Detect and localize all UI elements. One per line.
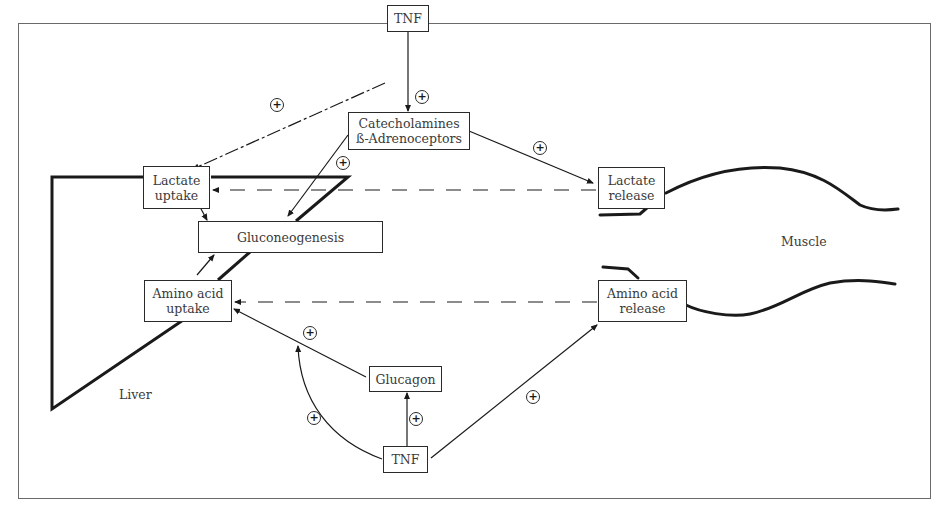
lactate-uptake-label-2: uptake — [155, 188, 199, 203]
catecholamines-node: Catecholamines ß-Adrenoceptors — [348, 112, 470, 150]
glucagon-label: Glucagon — [375, 372, 435, 387]
lactate-uptake-label-1: Lactate — [153, 173, 201, 188]
liver-label: Liver — [119, 387, 152, 402]
lactate-release-node: Lactate release — [598, 167, 665, 209]
gluconeogenesis-node: Gluconeogenesis — [198, 221, 383, 253]
amino-acid-release-label-2: release — [619, 301, 665, 316]
muscle-label: Muscle — [781, 234, 827, 249]
plus-icon: + — [409, 412, 423, 426]
gluconeogenesis-label: Gluconeogenesis — [237, 230, 344, 245]
plus-icon: + — [533, 141, 547, 155]
amino-acid-uptake-label-1: Amino acid — [153, 286, 224, 301]
lactate-release-label-2: release — [608, 188, 654, 203]
diagram-connectors — [0, 0, 949, 513]
plus-icon: + — [303, 326, 317, 340]
tnf-top-label: TNF — [394, 11, 422, 26]
tnf-top-node: TNF — [387, 5, 429, 32]
tnf-bottom-label: TNF — [392, 452, 420, 467]
amino-acid-uptake-node: Amino acid uptake — [144, 280, 232, 322]
catecholamines-label: Catecholamines — [358, 116, 459, 131]
plus-icon: + — [526, 390, 540, 404]
adrenoceptors-label: ß-Adrenoceptors — [356, 131, 462, 146]
glucagon-node: Glucagon — [369, 366, 442, 392]
amino-acid-uptake-label-2: uptake — [166, 301, 210, 316]
lactate-release-label-1: Lactate — [608, 173, 656, 188]
plus-icon: + — [307, 411, 321, 425]
tnf-bottom-node: TNF — [383, 446, 428, 473]
amino-acid-release-label-1: Amino acid — [607, 286, 678, 301]
plus-icon: + — [336, 156, 350, 170]
amino-acid-release-node: Amino acid release — [598, 280, 687, 322]
plus-icon: + — [270, 98, 284, 112]
plus-icon: + — [415, 90, 429, 104]
lactate-uptake-node: Lactate uptake — [143, 166, 210, 209]
